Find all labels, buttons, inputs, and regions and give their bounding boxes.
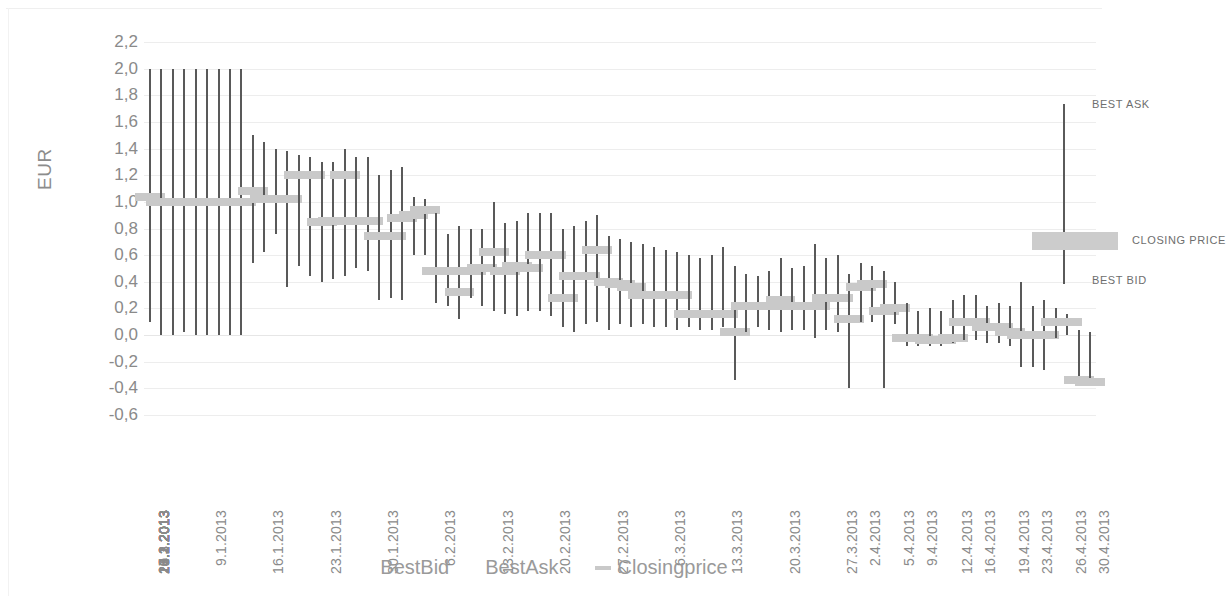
y-axis-tick: -0,6 — [109, 405, 138, 425]
bid-ask-range-line — [470, 229, 472, 298]
price-bar — [534, 42, 545, 415]
price-bar — [912, 42, 923, 415]
price-bar — [603, 42, 614, 415]
price-bar — [557, 42, 568, 415]
price-bar — [408, 42, 419, 415]
price-bar — [890, 42, 901, 415]
price-bar — [637, 42, 648, 415]
price-bar — [844, 42, 855, 415]
bid-ask-range-line — [883, 271, 885, 388]
frame-top-border — [6, 8, 1102, 9]
plot-area: BEST ASK CLOSING PRICE BEST BID — [144, 42, 1096, 415]
annotation-best-bid-label: BEST BID — [1092, 274, 1147, 286]
price-bar — [924, 42, 935, 415]
price-bar — [385, 42, 396, 415]
price-bar — [523, 42, 534, 415]
annotation-closing-bar — [1032, 232, 1118, 250]
price-bar — [958, 42, 969, 415]
price-bar — [614, 42, 625, 415]
price-bar — [729, 42, 740, 415]
price-bar — [626, 42, 637, 415]
bid-ask-range-line — [814, 244, 816, 337]
bid-ask-range-line — [401, 167, 403, 300]
x-axis-tick-labels: 2.1.20136.1.20139.1.201313.1.201316.1.20… — [144, 418, 1096, 538]
price-bar — [431, 42, 442, 415]
price-bar — [247, 42, 258, 415]
price-bar — [259, 42, 270, 415]
legend-item-bestask[interactable]: BestAsk — [485, 556, 558, 579]
price-bar — [867, 42, 878, 415]
price-bar — [167, 42, 178, 415]
price-bar — [1004, 42, 1015, 415]
price-bar — [190, 42, 201, 415]
annotation-key: BEST ASK CLOSING PRICE BEST BID — [1024, 94, 1230, 294]
bid-ask-range-line — [699, 258, 701, 330]
price-bar — [981, 42, 992, 415]
price-bar — [786, 42, 797, 415]
bid-ask-range-line — [275, 149, 277, 234]
bid-ask-range-line — [527, 213, 529, 312]
price-bar — [821, 42, 832, 415]
chart-legend: BestBidBestAskClosingprice — [0, 556, 1108, 579]
price-bar — [660, 42, 671, 415]
bid-ask-range-line — [355, 157, 357, 269]
bid-ask-range-line — [791, 268, 793, 329]
price-bar — [270, 42, 281, 415]
price-bar — [649, 42, 660, 415]
y-axis-tick: -0,4 — [109, 378, 138, 398]
bid-ask-range-line — [780, 258, 782, 333]
price-bar — [798, 42, 809, 415]
price-bar — [488, 42, 499, 415]
y-axis-title: EUR — [34, 100, 56, 190]
price-bar — [144, 42, 155, 415]
price-bar — [672, 42, 683, 415]
price-bar — [396, 42, 407, 415]
price-bar — [591, 42, 602, 415]
price-bar — [328, 42, 339, 415]
price-bar — [362, 42, 373, 415]
bid-ask-range-line — [803, 266, 805, 330]
price-bar — [763, 42, 774, 415]
price-bar — [832, 42, 843, 415]
legend-item-closingprice[interactable]: Closingprice — [595, 556, 728, 579]
price-bar — [236, 42, 247, 415]
price-bar — [683, 42, 694, 415]
price-bar — [442, 42, 453, 415]
y-axis-tick: 2,0 — [114, 59, 138, 79]
price-bar — [935, 42, 946, 415]
legend-item-label: BestAsk — [485, 556, 558, 579]
y-axis-tick: 0,6 — [114, 245, 138, 265]
y-axis-tick: -0,2 — [109, 352, 138, 372]
bid-ask-range-line — [1078, 330, 1080, 381]
y-axis-tick: 1,8 — [114, 85, 138, 105]
gridline — [144, 415, 1096, 416]
y-axis-tick: 2,2 — [114, 32, 138, 52]
price-bar — [901, 42, 912, 415]
price-bar — [545, 42, 556, 415]
bid-ask-range-line — [1089, 332, 1091, 383]
bid-ask-range-line — [596, 215, 598, 322]
price-bar — [970, 42, 981, 415]
price-bar — [339, 42, 350, 415]
bid-ask-range-line — [894, 282, 896, 325]
price-bar — [155, 42, 166, 415]
price-bar — [947, 42, 958, 415]
legend-item-bestbid[interactable]: BestBid — [380, 556, 449, 579]
price-bar — [511, 42, 522, 415]
price-bar — [500, 42, 511, 415]
price-bar — [373, 42, 384, 415]
price-bar — [878, 42, 889, 415]
legend-item-label: Closingprice — [618, 556, 728, 579]
y-axis-tick: 1,6 — [114, 112, 138, 132]
bid-ask-range-line — [653, 247, 655, 327]
bid-ask-range-line — [344, 149, 346, 277]
y-axis-tick: 0,4 — [114, 272, 138, 292]
bid-ask-range-line — [711, 255, 713, 330]
price-bar — [419, 42, 430, 415]
annotation-closing-price-label: CLOSING PRICE — [1132, 234, 1226, 246]
price-bar — [454, 42, 465, 415]
price-bar — [477, 42, 488, 415]
price-bar — [213, 42, 224, 415]
y-axis-tick: 0,2 — [114, 298, 138, 318]
bid-ask-range-line — [665, 250, 667, 327]
